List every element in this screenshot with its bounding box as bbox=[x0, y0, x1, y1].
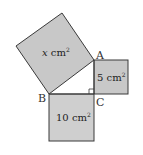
vertex-label-a: A bbox=[95, 49, 105, 62]
vertex-label-c: C bbox=[96, 96, 104, 109]
right-angle-marker bbox=[89, 89, 94, 94]
ac-area-label: 5 cm2 bbox=[97, 71, 126, 83]
hypotenuse-area-label: x cm2 bbox=[42, 46, 70, 58]
bc-area-label: 10 cm2 bbox=[56, 111, 91, 123]
pythagoras-diagram: x cm2 5 cm2 10 cm2 A B C bbox=[0, 0, 143, 155]
vertex-label-b: B bbox=[38, 92, 46, 105]
